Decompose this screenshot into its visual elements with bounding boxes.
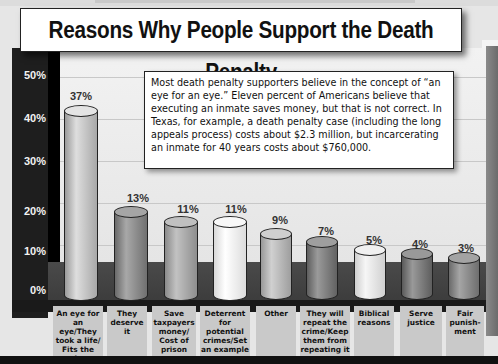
- bar-they-deserve-it: [114, 212, 148, 301]
- top-strip: [0, 0, 498, 6]
- category-label: Serve justice: [400, 306, 442, 356]
- cutoff-caption: [95, 0, 415, 3]
- category-label: Save taxpayers money/ Cost of prison: [152, 306, 196, 356]
- category-label: They will repeat the crime/Keep them fro…: [300, 306, 350, 356]
- y-tick-40: 40%: [14, 112, 46, 124]
- category-label: Deterrent for potential crimes/Set an ex…: [200, 306, 250, 356]
- bar-deterrent: [213, 222, 247, 301]
- y-tick-10: 10%: [14, 245, 46, 257]
- y-tick-30: 30%: [14, 155, 46, 167]
- bar-biblical-reasons: [354, 250, 386, 300]
- bar-value-label: 37%: [51, 90, 111, 102]
- category-label: An eye for an eye/They took a life/ Fits…: [53, 306, 103, 356]
- annotation-box: Most death penalty supporters believe in…: [144, 71, 454, 169]
- bar-repeat-crime: [306, 242, 338, 300]
- bottom-band: [0, 356, 498, 364]
- category-label: Other: [256, 306, 296, 356]
- bar-fair-punishment: [448, 258, 480, 300]
- y-tick-0: 0%: [14, 284, 46, 296]
- chart-right-wall: [486, 46, 498, 336]
- y-tick-20: 20%: [14, 205, 46, 217]
- bar-eye-for-eye: [64, 111, 98, 301]
- category-label: Fair punish-ment: [446, 306, 484, 356]
- chart-title-box: Reasons Why People Support the Death Pen…: [20, 8, 462, 52]
- category-label: Biblical reasons: [354, 306, 394, 356]
- bar-save-taxpayers-money: [164, 222, 198, 301]
- y-tick-50: 50%: [14, 69, 46, 81]
- category-label: They deserve it: [107, 306, 147, 356]
- bar-other: [260, 234, 292, 300]
- bar-serve-justice: [401, 254, 433, 300]
